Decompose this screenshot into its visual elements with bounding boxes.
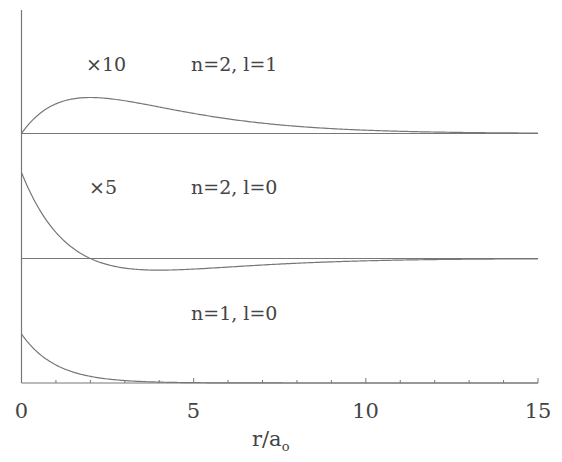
state-label-n2-l1: n=2, l=1 [191, 53, 277, 75]
x-tick-label-5: 5 [187, 399, 200, 423]
scale-label-x5: ×5 [89, 176, 117, 198]
x-tick-label-10: 10 [352, 399, 379, 423]
state-label-n2-l0: n=2, l=0 [191, 176, 277, 198]
radial-wavefunction-chart: ×10 n=2, l=1 ×5 n=2, l=0 n=1, l=0 0 5 10… [0, 0, 562, 462]
x-axis-label: r/ao [252, 427, 290, 454]
x-axis-label-main: r/a [252, 427, 282, 451]
x-tick-label-15: 15 [525, 399, 552, 423]
x-axis-label-subscript: o [282, 439, 290, 454]
x-tick-label-0: 0 [15, 399, 28, 423]
state-label-n1-l0: n=1, l=0 [191, 302, 277, 324]
curve-n1-l0 [22, 334, 539, 383]
curve-n2-l1 [22, 98, 539, 134]
scale-label-x10: ×10 [86, 53, 126, 75]
